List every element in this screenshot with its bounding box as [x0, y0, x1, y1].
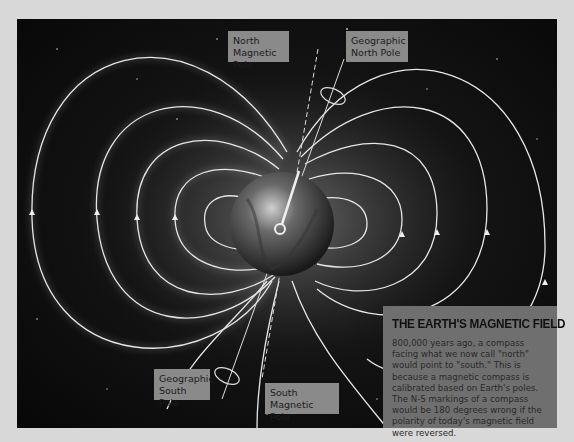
label-north-magnetic-pole: North Magnetic Pole: [228, 31, 289, 62]
info-title: THE EARTH'S MAGNETIC FIELD: [392, 316, 533, 331]
label-geographic-north-pole: Geographic North Pole: [346, 31, 408, 62]
label-geographic-south-pole: Geographic South Pole: [154, 369, 210, 400]
label-south-magnetic-pole: South Magnetic Pole: [265, 383, 339, 414]
info-box: THE EARTH'S MAGNETIC FIELD 800,000 years…: [383, 306, 557, 428]
info-description: 800,000 years ago, a compass facing what…: [392, 338, 549, 439]
label-geographic-north-pole-text: Geographic North Pole: [351, 35, 406, 58]
